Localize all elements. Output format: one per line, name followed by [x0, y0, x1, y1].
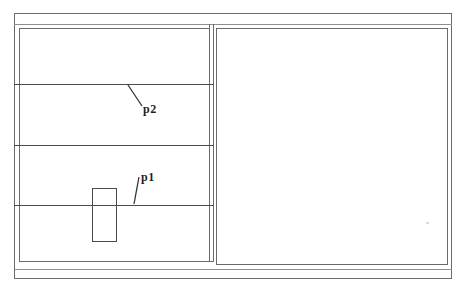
left-panel-row-line-2: [14, 145, 214, 146]
outer-border-bottom-line: [14, 278, 452, 279]
label-p2: p2: [143, 103, 157, 115]
right-panel-top-line: [216, 28, 448, 29]
p2-leader-line: [128, 85, 142, 106]
right-panel-left-line: [216, 28, 217, 265]
label-p1: p1: [141, 171, 155, 183]
right-panel-bottom-line: [216, 264, 448, 265]
outer-border-top-line: [14, 13, 452, 14]
p1-leader-line: [134, 177, 139, 204]
outer-border-left-line: [14, 13, 15, 279]
stray-mark: [426, 222, 429, 224]
outer-border-right-line: [451, 13, 452, 279]
bottom-band-line: [14, 269, 452, 270]
left-panel-row-line-1: [14, 84, 214, 85]
center-divider-line: [213, 24, 214, 262]
top-band-line: [14, 24, 452, 25]
left-panel-top-line: [19, 28, 210, 29]
cad-drawing-canvas: p2 p1: [0, 0, 465, 292]
left-panel-bottom-line: [19, 261, 214, 262]
leader-lines: [0, 0, 465, 292]
right-panel-right-line: [447, 28, 448, 265]
left-panel-right-line: [209, 24, 210, 262]
small-rectangle-detail: [92, 188, 117, 242]
